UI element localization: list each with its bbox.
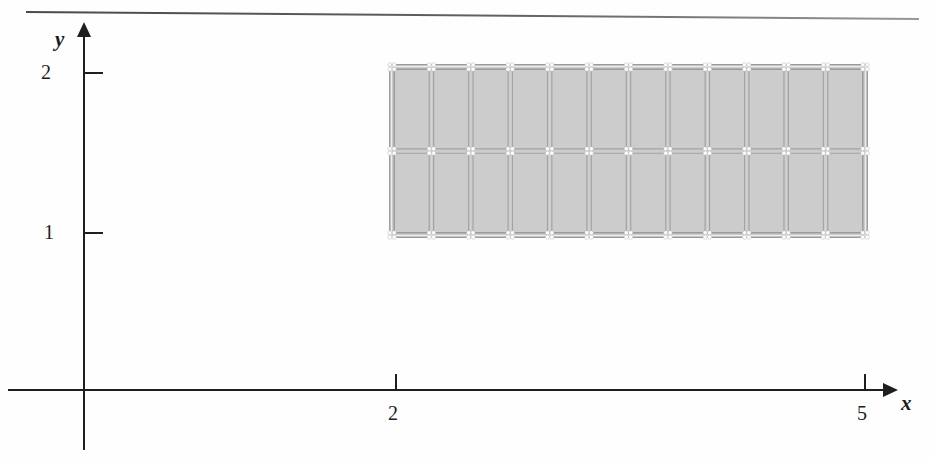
mesh-node	[506, 147, 510, 151]
mesh-node	[550, 235, 554, 239]
mesh-node	[821, 63, 825, 67]
mesh-node	[392, 147, 396, 151]
mesh-node	[392, 231, 396, 235]
mesh-element	[629, 67, 668, 151]
mesh-node	[432, 235, 436, 239]
mesh-node	[782, 63, 786, 67]
mesh-node	[427, 235, 431, 239]
mesh-element	[589, 151, 628, 235]
mesh-node	[821, 147, 825, 151]
mesh-node	[471, 235, 475, 239]
mesh-node	[742, 63, 746, 67]
mesh-element	[471, 67, 510, 151]
mesh-node	[589, 231, 593, 235]
mesh-node	[742, 147, 746, 151]
mesh-node	[624, 63, 628, 67]
mesh-node	[629, 231, 633, 235]
mesh-node	[865, 147, 869, 151]
mesh-node	[821, 235, 825, 239]
mesh-node	[826, 63, 830, 67]
mesh-node	[707, 231, 711, 235]
mesh-node	[545, 231, 549, 235]
mesh-node	[865, 235, 869, 239]
mesh-node	[550, 147, 554, 151]
mesh-node	[668, 63, 672, 67]
mesh-node	[707, 63, 711, 67]
mesh-node	[865, 151, 869, 155]
mesh-node	[624, 151, 628, 155]
mesh-node	[388, 151, 392, 155]
mesh-node	[786, 235, 790, 239]
mesh-node	[585, 231, 589, 235]
mesh-node	[585, 147, 589, 151]
finite-element-mesh	[0, 0, 935, 458]
mesh-node	[427, 151, 431, 155]
mesh-node	[747, 151, 751, 155]
mesh-node	[467, 235, 471, 239]
mesh-node	[703, 67, 707, 71]
mesh-node	[861, 231, 865, 235]
mesh-node	[629, 147, 633, 151]
mesh-element	[431, 67, 470, 151]
mesh-node	[510, 147, 514, 151]
mesh-node	[471, 63, 475, 67]
mesh-node	[585, 63, 589, 67]
mesh-node	[786, 231, 790, 235]
mesh-node	[388, 63, 392, 67]
mesh-element	[550, 67, 589, 151]
mesh-node	[510, 63, 514, 67]
mesh-element	[786, 67, 825, 151]
mesh-node	[545, 63, 549, 67]
mesh-node	[703, 151, 707, 155]
mesh-element	[747, 67, 786, 151]
mesh-node	[510, 67, 514, 71]
mesh-node	[861, 151, 865, 155]
mesh-node	[506, 63, 510, 67]
mesh-node	[467, 147, 471, 151]
mesh-element	[629, 151, 668, 235]
mesh-node	[510, 235, 514, 239]
mesh-node	[467, 63, 471, 67]
mesh-node	[392, 235, 396, 239]
mesh-node	[624, 147, 628, 151]
mesh-node	[668, 147, 672, 151]
mesh-node	[506, 67, 510, 71]
mesh-element	[786, 151, 825, 235]
mesh-node	[747, 235, 751, 239]
mesh-node	[707, 151, 711, 155]
mesh-node	[786, 147, 790, 151]
mesh-node	[589, 147, 593, 151]
mesh-node	[786, 67, 790, 71]
mesh-node	[664, 63, 668, 67]
mesh-node	[432, 63, 436, 67]
mesh-node	[707, 235, 711, 239]
mesh-node	[826, 67, 830, 71]
mesh-node	[585, 67, 589, 71]
mesh-node	[585, 235, 589, 239]
mesh-node	[388, 231, 392, 235]
mesh-element	[707, 151, 746, 235]
mesh-element	[826, 151, 865, 235]
mesh-node	[865, 67, 869, 71]
mesh-node	[747, 231, 751, 235]
mesh-node	[747, 63, 751, 67]
mesh-node	[589, 235, 593, 239]
mesh-node	[467, 231, 471, 235]
mesh-node	[624, 231, 628, 235]
mesh-node	[388, 67, 392, 71]
mesh-node	[432, 147, 436, 151]
mesh-node	[782, 235, 786, 239]
mesh-node	[388, 235, 392, 239]
mesh-node	[427, 63, 431, 67]
mesh-node	[589, 63, 593, 67]
mesh-node	[467, 67, 471, 71]
mesh-node	[589, 67, 593, 71]
mesh-node	[432, 67, 436, 71]
mesh-node	[432, 151, 436, 155]
mesh-element	[431, 151, 470, 235]
mesh-node	[747, 67, 751, 71]
mesh-node	[432, 231, 436, 235]
mesh-node	[703, 231, 707, 235]
mesh-node	[545, 147, 549, 151]
mesh-node	[388, 147, 392, 151]
